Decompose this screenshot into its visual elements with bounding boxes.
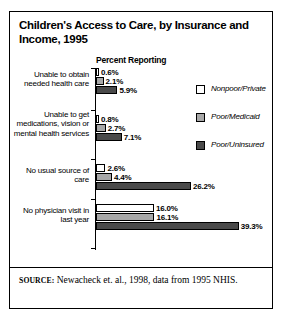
legend-label: Poor/Uninsured bbox=[211, 140, 264, 149]
bar-value-label: 5.9% bbox=[119, 86, 136, 95]
bar bbox=[96, 182, 191, 190]
legend-swatch-icon bbox=[196, 85, 205, 94]
figure-frame: Children's Access to Care, by Insurance … bbox=[9, 11, 273, 309]
bar bbox=[96, 164, 105, 172]
bar-value-label: 2.1% bbox=[106, 77, 123, 86]
bar bbox=[96, 204, 154, 212]
category-label: Unable to get medications, vision or men… bbox=[13, 110, 89, 138]
legend: Nonpoor/PrivatePoor/MedicaidPoor/Uninsur… bbox=[196, 84, 285, 168]
bar-value-label: 26.2% bbox=[193, 182, 215, 191]
source-note: SOURCE: Newacheck et. al., 1998, data fr… bbox=[19, 274, 265, 287]
legend-label: Poor/Medicaid bbox=[211, 112, 260, 121]
bar bbox=[96, 115, 99, 123]
category-label: No usual source of care bbox=[13, 166, 89, 185]
axis-tick bbox=[91, 248, 96, 249]
axis-tick bbox=[91, 68, 96, 69]
bar-value-label: 39.3% bbox=[241, 222, 263, 231]
bar-value-label: 2.7% bbox=[108, 124, 125, 133]
bar-value-label: 0.8% bbox=[101, 115, 118, 124]
source-text: Newacheck et. al., 1998, data from 1995 … bbox=[54, 275, 237, 285]
bar bbox=[96, 173, 112, 181]
axis-tick bbox=[91, 159, 96, 160]
legend-swatch-icon bbox=[196, 141, 205, 150]
bar-value-label: 0.6% bbox=[101, 68, 118, 77]
bar-value-label: 16.0% bbox=[156, 204, 178, 213]
axis-tick bbox=[91, 110, 96, 111]
axis-title: Percent Reporting bbox=[96, 55, 166, 65]
legend-item[interactable]: Nonpoor/Private bbox=[196, 84, 285, 96]
legend-swatch-icon bbox=[196, 113, 205, 122]
axis-tick bbox=[91, 199, 96, 200]
source-label: SOURCE: bbox=[19, 276, 54, 285]
bar-value-label: 4.4% bbox=[114, 173, 131, 182]
bar bbox=[96, 124, 106, 132]
category-label: Unable to obtain needed health care bbox=[13, 70, 89, 89]
legend-item[interactable]: Poor/Uninsured bbox=[196, 140, 285, 152]
bar bbox=[96, 86, 117, 94]
bar bbox=[96, 77, 104, 85]
category-label: No physician visit in last year bbox=[13, 206, 89, 225]
bar-value-label: 16.1% bbox=[156, 213, 178, 222]
bar bbox=[96, 133, 122, 141]
bar bbox=[96, 222, 239, 230]
bar-value-label: 7.1% bbox=[124, 133, 141, 142]
bar bbox=[96, 213, 154, 221]
bar-value-label: 2.6% bbox=[107, 164, 124, 173]
bar bbox=[96, 68, 99, 76]
source-divider bbox=[10, 267, 272, 268]
legend-item[interactable]: Poor/Medicaid bbox=[196, 112, 285, 124]
legend-label: Nonpoor/Private bbox=[211, 84, 266, 93]
chart-title: Children's Access to Care, by Insurance … bbox=[19, 19, 267, 46]
